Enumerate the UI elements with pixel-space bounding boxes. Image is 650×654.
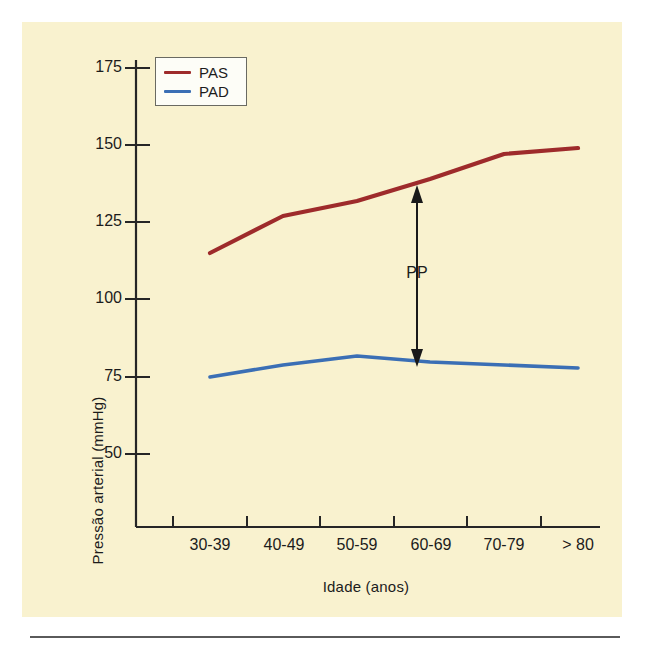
y-tick-label: 100 <box>70 289 122 307</box>
chart-legend: PAS PAD <box>155 57 247 106</box>
x-axis-title: Idade (anos) <box>136 578 596 595</box>
x-tick-label: > 80 <box>539 536 617 554</box>
legend-label-pas: PAS <box>199 65 228 80</box>
x-axis-ticks <box>173 516 541 527</box>
y-axis-title-wrapper: Pressão arterial (mmHg) <box>46 180 68 410</box>
x-tick-label: 70-79 <box>465 536 543 554</box>
figure-root: 175 150 125 100 75 50 30-39 40-49 50-59 … <box>0 0 650 654</box>
series-line-pad <box>210 356 578 377</box>
legend-item-pas: PAS <box>164 65 246 80</box>
legend-swatch-pad-icon <box>164 90 191 93</box>
x-tick-label: 40-49 <box>245 536 323 554</box>
y-tick-label: 125 <box>70 212 122 230</box>
legend-swatch-pas-icon <box>164 71 191 74</box>
pp-annotation-label: PP <box>395 264 439 282</box>
y-tick-label: 150 <box>70 135 122 153</box>
y-axis-ticks <box>125 68 150 454</box>
x-tick-label: 60-69 <box>392 536 470 554</box>
y-axis-title: Pressão arterial (mmHg) <box>89 366 106 596</box>
page-horizontal-rule <box>30 636 620 638</box>
x-tick-label: 30-39 <box>171 536 249 554</box>
x-tick-label: 50-59 <box>318 536 396 554</box>
legend-item-pad: PAD <box>164 84 246 99</box>
series-line-pas <box>210 148 578 253</box>
legend-label-pad: PAD <box>199 84 229 99</box>
y-tick-label: 175 <box>70 58 122 76</box>
